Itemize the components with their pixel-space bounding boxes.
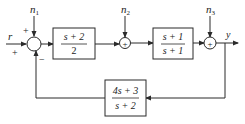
sum2-symbol: + <box>122 39 127 49</box>
feedback-block: 4s + 3 s + 2 <box>105 80 146 116</box>
plant-numerator: s + 1 <box>163 31 184 42</box>
block-diagram: r + n1 + − s + 2 2 n2 + s + 1 s + 1 <box>0 0 245 124</box>
noise-3-input: n3 <box>206 3 216 37</box>
controller-numerator: s + 2 <box>64 31 85 42</box>
noise-1-label: n1 <box>30 3 40 17</box>
output: y <box>216 29 238 43</box>
sum3-symbol: + <box>207 39 212 49</box>
summing-junction-1 <box>27 37 41 51</box>
reference-label: r <box>8 30 13 42</box>
noise-1-input: n1 + <box>23 3 40 36</box>
sum1-left-sign: + <box>12 47 18 58</box>
noise-2-input: n2 <box>121 3 131 37</box>
plant-denominator: s + 1 <box>163 45 184 56</box>
feedback-denominator: s + 2 <box>115 100 136 111</box>
controller-block: s + 2 2 <box>53 28 95 59</box>
output-label: y <box>225 29 231 40</box>
feedback-numerator: 4s + 3 <box>113 85 139 96</box>
noise-2-label: n2 <box>121 3 131 17</box>
controller-denominator: 2 <box>72 45 77 56</box>
plant-block: s + 1 s + 1 <box>153 28 193 59</box>
sum1-bottom-sign: − <box>39 54 45 65</box>
noise-3-label: n3 <box>206 3 216 17</box>
sum1-top-sign: + <box>23 25 29 36</box>
